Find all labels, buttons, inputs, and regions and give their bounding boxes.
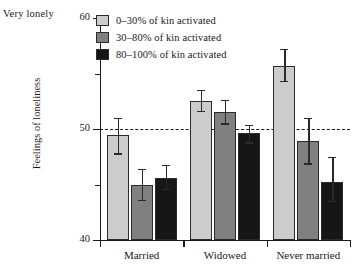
bar-widowed-series-2	[214, 112, 236, 240]
chart-legend: 0–30% of kin activated30–80% of kin acti…	[96, 12, 227, 63]
x-axis-tick	[267, 240, 268, 247]
legend-swatch-icon	[96, 32, 109, 43]
loneliness-bar-chart: Very lonely 405060 Feelings of lonelines…	[0, 0, 359, 271]
x-label-widowed: Widowed	[183, 249, 266, 261]
bar-widowed-series-3	[238, 133, 260, 240]
error-bar-cap-upper	[304, 118, 312, 119]
y-axis-title: Feelings of loneliness	[31, 64, 42, 184]
error-bar-cap-lower	[197, 111, 205, 112]
legend-label: 80–100% of kin activated	[116, 49, 227, 60]
error-bar-line	[142, 169, 143, 200]
error-bar-line	[332, 157, 333, 201]
error-bar-cap-upper	[162, 165, 170, 166]
x-label-married: Married	[100, 249, 183, 261]
legend-item-3: 80–100% of kin activated	[96, 46, 227, 62]
legend-label: 0–30% of kin activated	[116, 15, 216, 26]
x-axis-tick	[350, 240, 351, 247]
legend-label: 30–80% of kin activated	[116, 32, 221, 43]
error-bar-cap-lower	[221, 123, 229, 124]
x-axis-line	[100, 240, 350, 241]
error-bar-cap-lower	[304, 163, 312, 164]
error-bar-cap-lower	[328, 201, 336, 202]
error-bar-cap-upper	[138, 169, 146, 170]
error-bar-cap-upper	[197, 90, 205, 91]
legend-swatch-icon	[96, 15, 109, 26]
legend-swatch-icon	[96, 49, 109, 60]
y-tick-label-40: 40	[64, 233, 90, 244]
y-tick-label-50: 50	[64, 122, 90, 133]
error-bar-cap-lower	[245, 142, 253, 143]
error-bar-line	[118, 118, 119, 154]
error-bar-cap-lower	[114, 153, 122, 154]
legend-item-2: 30–80% of kin activated	[96, 29, 227, 45]
error-bar-cap-lower	[162, 189, 170, 190]
error-bar-cap-lower	[280, 81, 288, 82]
error-bar-cap-upper	[114, 118, 122, 119]
bar-widowed-series-1	[190, 101, 212, 240]
error-bar-cap-upper	[328, 157, 336, 158]
bar-never-married-series-1	[273, 66, 295, 240]
error-bar-line	[284, 49, 285, 81]
error-bar-cap-upper	[221, 100, 229, 101]
legend-item-1: 0–30% of kin activated	[96, 12, 227, 28]
error-bar-cap-upper	[280, 49, 288, 50]
error-bar-line	[308, 118, 309, 164]
x-axis-tick	[100, 240, 101, 247]
error-bar-line	[225, 100, 226, 123]
very-lonely-annotation: Very lonely	[3, 8, 54, 19]
error-bar-line	[166, 165, 167, 189]
y-tick-label-60: 60	[64, 11, 90, 22]
x-label-never-married: Never married	[267, 249, 350, 261]
error-bar-line	[201, 90, 202, 111]
error-bar-cap-lower	[138, 200, 146, 201]
x-axis-tick	[183, 240, 184, 247]
error-bar-line	[249, 125, 250, 143]
error-bar-cap-upper	[245, 125, 253, 126]
